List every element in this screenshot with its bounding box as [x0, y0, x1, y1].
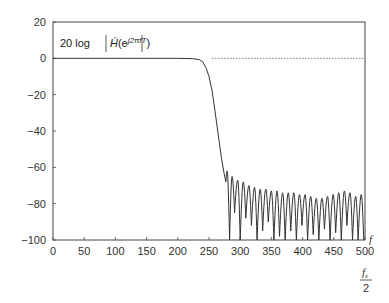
x-tick-label: 350 — [262, 245, 280, 257]
x-axis-label: f — [369, 233, 374, 245]
y-axis: 200−20−40−60−80−100 — [21, 16, 56, 246]
x-tick-label: 100 — [106, 245, 124, 257]
fs-over-2-label: fs 2 — [360, 266, 372, 294]
chart: 200−20−40−60−80−100 05010015020025030035… — [0, 0, 389, 303]
x-tick-label: 300 — [231, 245, 249, 257]
chart-title: 20 log — [60, 37, 90, 49]
series-line-magnitude — [53, 58, 364, 240]
x-tick-label: 450 — [325, 245, 343, 257]
chart-title-box: 20 log Ĥ(ej2πfT) — [60, 35, 150, 52]
x-tick-label: 200 — [169, 245, 187, 257]
y-tick-label: −40 — [27, 125, 46, 137]
fs-denominator: 2 — [363, 282, 369, 294]
y-tick-label: −60 — [27, 161, 46, 173]
y-tick-label: −100 — [21, 234, 46, 246]
title-close: ) — [146, 37, 150, 49]
fs-numerator: fs — [362, 266, 368, 280]
title-exponent: j2πfT — [127, 36, 148, 45]
title-func: Ĥ(ej2πfT) — [110, 36, 150, 49]
y-tick-label: −80 — [27, 198, 46, 210]
x-tick-label: 400 — [293, 245, 311, 257]
x-tick-label: 50 — [78, 245, 90, 257]
y-tick-label: 20 — [34, 16, 46, 28]
plot-border — [53, 22, 365, 240]
x-tick-label: 500 — [356, 245, 374, 257]
x-tick-label: 150 — [137, 245, 155, 257]
series-group — [53, 58, 364, 240]
title-func-symbol: Ĥ — [110, 37, 118, 49]
plot-frame — [53, 22, 365, 240]
x-tick-label: 0 — [50, 245, 56, 257]
x-tick-label: 250 — [200, 245, 218, 257]
y-tick-label: −20 — [27, 89, 46, 101]
title-open: (e — [118, 37, 128, 49]
title-prefix: 20 log — [60, 37, 90, 49]
y-tick-label: 0 — [40, 52, 46, 64]
